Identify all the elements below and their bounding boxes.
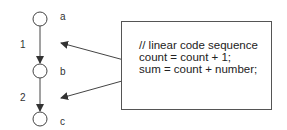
code-line-1: count = count + 1; xyxy=(139,51,231,63)
edge-label-2: 2 xyxy=(20,93,26,103)
node-label-a: a xyxy=(60,12,66,22)
code-line-2: sum = count + number; xyxy=(139,63,257,75)
node-a xyxy=(33,12,47,26)
node-c xyxy=(33,112,47,126)
node-label-c: c xyxy=(60,117,65,127)
code-comment: // linear code sequence xyxy=(139,39,258,51)
node-label-b: b xyxy=(60,67,66,77)
code-box: // linear code sequence count = count + … xyxy=(121,21,272,110)
edge-label-1: 1 xyxy=(20,40,26,50)
node-b xyxy=(33,64,47,78)
